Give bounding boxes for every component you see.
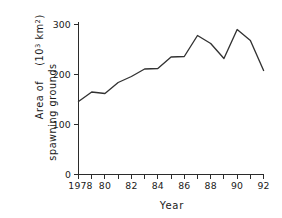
line-chart: 0 100 200 300 1978 80 82 8: [0, 0, 282, 218]
y-axis-title-line1: Area of: [34, 81, 45, 120]
chart-figure: 0 100 200 300 1978 80 82 8: [0, 0, 282, 218]
x-tick-label-1988: 88: [205, 180, 217, 191]
y-tick-label-300: 300: [53, 19, 71, 30]
y-axis-title-line2: spawning grounds: [47, 63, 58, 160]
x-tick-label-1986: 86: [178, 180, 190, 191]
y-tick-label-0: 0: [65, 169, 71, 180]
x-tick-label-1992: 92: [257, 180, 269, 191]
x-tick-label-1978: 1978: [68, 180, 92, 191]
x-tick-label-1980: 80: [99, 180, 111, 191]
x-tick-label-1990: 90: [231, 180, 243, 191]
x-axis-title: Year: [159, 200, 184, 211]
x-tick-label-1984: 84: [152, 180, 164, 191]
x-tick-label-1982: 82: [125, 180, 137, 191]
